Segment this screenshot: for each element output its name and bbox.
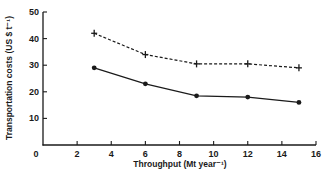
x-tick-label: 4 [109, 149, 114, 159]
y-tick-label: 30 [29, 60, 39, 70]
x-tick-label: 2 [75, 149, 80, 159]
line-chart: 10203040502468101214160 Throughput (Mt y… [0, 0, 332, 179]
x-axis-label: Throughput (Mt year⁻¹) [133, 159, 226, 169]
circle-marker [143, 81, 148, 86]
x-tick-label: 16 [311, 149, 321, 159]
y-axis-label: Transportation costs (US $ t⁻¹) [4, 16, 14, 140]
x-tick-label: 14 [277, 149, 287, 159]
plus-marker [296, 64, 302, 71]
y-tick-label: 40 [29, 34, 39, 44]
plus-marker [142, 51, 148, 58]
plus-marker [245, 60, 251, 67]
series-group [91, 30, 302, 105]
circle-marker [194, 93, 199, 98]
x-tick-label: 10 [209, 149, 219, 159]
y-tick-label: 10 [29, 113, 39, 123]
x-tick-label: 12 [243, 149, 253, 159]
plus-marker [194, 60, 200, 67]
origin-label: 0 [33, 149, 38, 159]
y-tick-label: 50 [29, 7, 39, 17]
circle-marker [92, 65, 97, 70]
circle-marker [245, 95, 250, 100]
y-tick-label: 20 [29, 87, 39, 97]
x-tick-label: 6 [143, 149, 148, 159]
circle-marker [297, 100, 302, 105]
axes: 10203040502468101214160 [29, 7, 321, 159]
plus-marker [91, 30, 97, 37]
x-tick-label: 8 [177, 149, 182, 159]
